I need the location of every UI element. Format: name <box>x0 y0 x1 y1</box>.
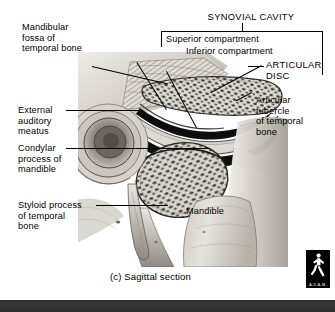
label-articular-disc: ARTICULAR DISC <box>266 60 335 81</box>
label-inferior-compartment: Inferior compartment <box>186 46 335 57</box>
figure-canvas: SYNOVIAL CAVITY Mandibular fossa of temp… <box>0 0 335 312</box>
adam-logo: A.D.A.M. <box>306 250 330 288</box>
label-superior-compartment: Superior compartment <box>166 34 316 45</box>
label-mandible: Mandible <box>186 206 256 217</box>
synovial-cavity-bracket-left <box>161 31 162 47</box>
synovial-cavity-tick <box>242 23 243 31</box>
tmj-sagittal-illustration <box>78 52 288 267</box>
label-styloid-process: Styloid process of temporal bone <box>18 200 114 232</box>
label-condylar-process: Condylar process of mandible <box>18 143 104 175</box>
label-external-auditory-meatus: External auditory meatus <box>18 105 100 137</box>
bottom-band <box>0 300 335 312</box>
figure-caption: (c) Sagittal section <box>110 272 250 283</box>
label-articular-tubercle: Articular tubercle of temporal bone <box>256 95 334 137</box>
walking-figure-icon <box>306 252 330 279</box>
synovial-cavity-bracket-top <box>161 31 323 32</box>
adam-logo-text: A.D.A.M. <box>306 283 330 287</box>
label-mandibular-fossa: Mandibular fossa of temporal bone <box>22 22 114 54</box>
label-synovial-cavity: SYNOVIAL CAVITY <box>186 12 316 23</box>
